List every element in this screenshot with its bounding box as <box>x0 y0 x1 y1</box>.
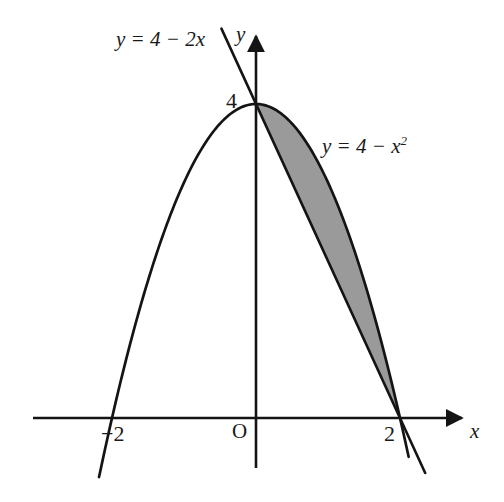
line-curve <box>221 29 425 473</box>
parabola-equation-label: y = 4 − x2 <box>322 134 407 157</box>
x-axis-label: x <box>470 421 479 442</box>
line-equation-label: y = 4 − 2x <box>116 29 205 50</box>
parabola-equation-base: y = 4 − x <box>322 134 400 158</box>
x-tick-label-negative-two: −2 <box>101 423 124 445</box>
y-axis-label: y <box>236 24 245 45</box>
origin-label: O <box>232 421 247 442</box>
figure-container: y = 4 − 2x y = 4 − x2 y x 4 O −2 2 <box>0 0 504 502</box>
y-intercept-tick-label: 4 <box>226 90 237 112</box>
graph-canvas <box>0 0 504 502</box>
x-tick-label-two: 2 <box>384 423 395 445</box>
parabola-equation-exponent: 2 <box>400 133 407 148</box>
